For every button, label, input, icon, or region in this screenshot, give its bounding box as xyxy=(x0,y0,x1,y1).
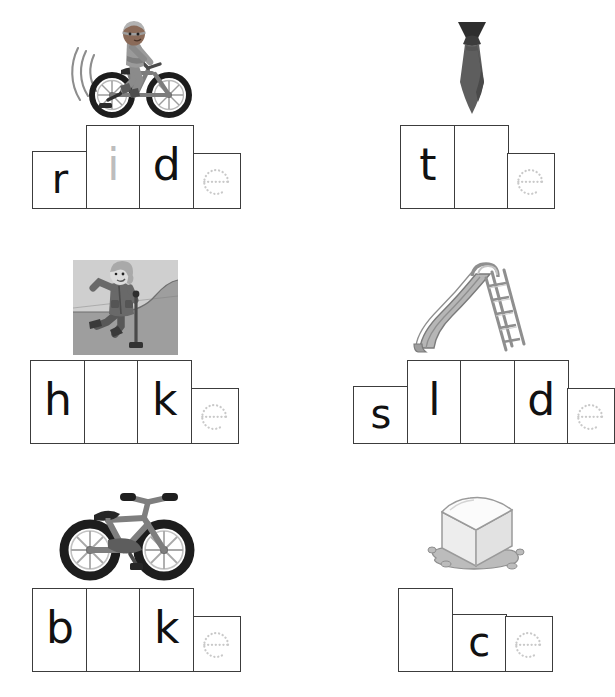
dotted-letter-e-icon xyxy=(574,399,608,433)
letter-h: h xyxy=(44,378,72,422)
trace-cell-e[interactable] xyxy=(193,616,241,672)
word-boxes-ride: r i d xyxy=(34,125,241,209)
letter-cell-c[interactable]: c xyxy=(452,614,507,672)
word-boxes-ice: c xyxy=(400,588,553,672)
dotted-letter-e-icon xyxy=(200,164,234,198)
letter-cell-blank-i[interactable] xyxy=(454,125,509,209)
letter-cell-k[interactable]: k xyxy=(137,360,192,444)
letter-c: c xyxy=(468,622,490,662)
dotted-letter-e-icon xyxy=(514,164,548,198)
trace-cell-e[interactable] xyxy=(193,153,241,209)
word-boxes-slide: s l d xyxy=(355,360,615,444)
bicycle-picture xyxy=(52,482,202,582)
letter-cell-k[interactable]: k xyxy=(139,588,194,672)
letter-cell-b[interactable]: b xyxy=(32,588,87,672)
letter-cell-r[interactable]: r xyxy=(32,151,87,209)
letter-d: d xyxy=(527,378,555,422)
necktie-picture xyxy=(432,16,512,126)
playground-slide-picture xyxy=(408,258,538,358)
letter-cell-l[interactable]: l xyxy=(407,360,462,444)
dotted-letter-e-icon xyxy=(200,627,234,661)
trace-cell-e[interactable] xyxy=(567,388,615,444)
letter-i: i xyxy=(107,143,119,187)
letter-cell-blank-i[interactable] xyxy=(86,588,141,672)
letter-l: l xyxy=(428,378,440,422)
letter-cell-blank-i[interactable] xyxy=(398,588,453,672)
dotted-letter-e-icon xyxy=(512,627,546,661)
trace-cell-e[interactable] xyxy=(505,616,553,672)
letter-cell-i[interactable]: i xyxy=(86,125,141,209)
letter-s: s xyxy=(370,394,391,434)
letter-cell-blank-i[interactable] xyxy=(84,360,139,444)
trace-cell-e[interactable] xyxy=(507,153,555,209)
letter-b: b xyxy=(46,606,74,650)
letter-cell-s[interactable]: s xyxy=(353,386,408,444)
letter-cell-blank-i[interactable] xyxy=(460,360,515,444)
child-riding-bicycle-picture xyxy=(72,18,202,123)
letter-cell-d[interactable]: d xyxy=(139,125,194,209)
dotted-letter-e-icon xyxy=(198,399,232,433)
letter-cell-t[interactable]: t xyxy=(400,125,455,209)
melting-ice-cube-picture xyxy=(420,486,540,581)
trace-cell-e[interactable] xyxy=(191,388,239,444)
letter-t: t xyxy=(419,143,436,187)
word-boxes-bike: b k xyxy=(34,588,241,672)
word-boxes-tie: t xyxy=(402,125,555,209)
letter-k: k xyxy=(152,378,177,422)
letter-cell-d[interactable]: d xyxy=(514,360,569,444)
letter-k: k xyxy=(154,606,179,650)
word-boxes-hike: h k xyxy=(32,360,239,444)
letter-d: d xyxy=(153,143,181,187)
hiker-picture xyxy=(73,260,178,355)
letter-r: r xyxy=(52,159,68,199)
letter-cell-h[interactable]: h xyxy=(30,360,85,444)
